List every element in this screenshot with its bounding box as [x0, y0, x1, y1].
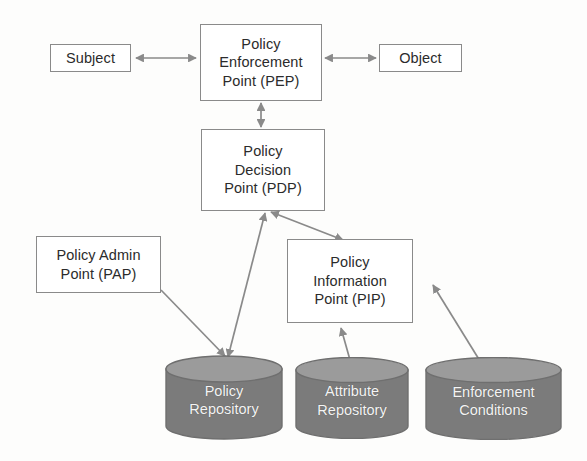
edge-attribute-repository-pip — [341, 328, 350, 360]
node-policy-repository[interactable]: Policy Repository — [164, 355, 284, 440]
node-subject[interactable]: Subject — [50, 44, 131, 72]
node-policy-decision-point-label: Policy Decision Point (PDP) — [220, 142, 306, 198]
node-policy-enforcement-point-label: Policy Enforcement Point (PEP) — [215, 35, 306, 91]
node-object[interactable]: Object — [379, 44, 462, 72]
edge-pap-policy-repository — [161, 290, 225, 356]
node-policy-information-point-label: Policy Information Point (PIP) — [309, 253, 391, 309]
node-policy-decision-point[interactable]: Policy Decision Point (PDP) — [201, 129, 325, 211]
diagram-canvas: BAC Subject Policy Enforcement Point (PE… — [0, 0, 587, 461]
edge-enforcement-conditions-pip — [433, 285, 480, 361]
node-object-label: Object — [395, 49, 446, 68]
node-attribute-repository[interactable]: Attribute Repository — [294, 357, 410, 439]
node-policy-admin-point[interactable]: Policy Admin Point (PAP) — [36, 236, 161, 293]
node-policy-information-point[interactable]: Policy Information Point (PIP) — [287, 239, 413, 323]
edge-policy-repository-pdp — [228, 213, 265, 357]
node-subject-label: Subject — [62, 49, 119, 68]
node-policy-enforcement-point[interactable]: Policy Enforcement Point (PEP) — [200, 24, 322, 101]
edge-pip-pdp — [271, 212, 343, 240]
node-enforcement-conditions[interactable]: Enforcement Conditions — [424, 357, 563, 440]
node-policy-admin-point-label: Policy Admin Point (PAP) — [52, 246, 144, 283]
